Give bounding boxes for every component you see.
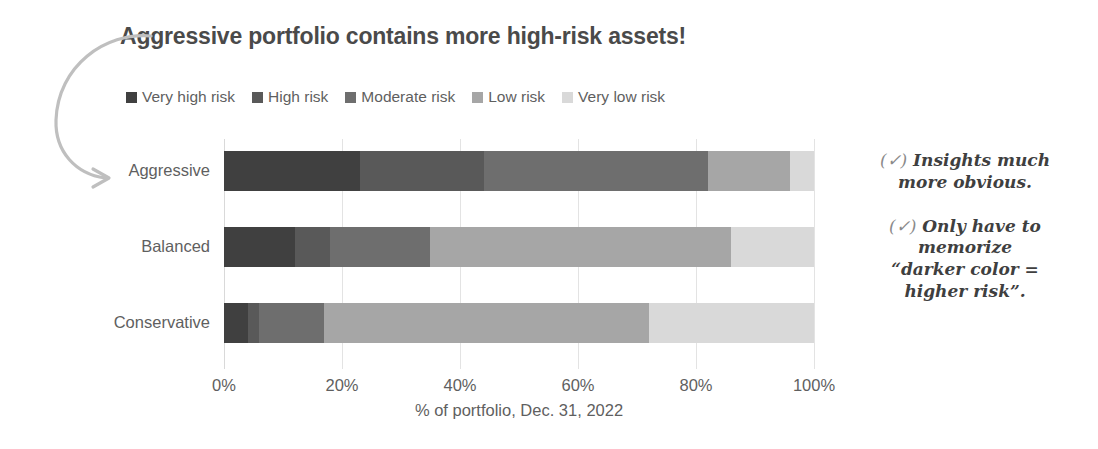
legend-swatch-icon bbox=[126, 92, 137, 103]
legend-swatch-icon bbox=[562, 92, 573, 103]
legend-swatch-icon bbox=[472, 92, 483, 103]
legend-item-high-risk[interactable]: High risk bbox=[252, 88, 328, 106]
check-icon: (✓) bbox=[889, 216, 916, 236]
legend-item-very-low-risk[interactable]: Very low risk bbox=[562, 88, 665, 106]
chart-legend: Very high risk High risk Moderate risk L… bbox=[126, 88, 665, 106]
annotation-line: “darker color = bbox=[840, 259, 1090, 281]
y-axis-label-conservative: Conservative bbox=[30, 313, 210, 332]
bar-row bbox=[224, 151, 814, 191]
annotation-group: (✓) Insights much more obvious. (✓) Only… bbox=[840, 150, 1090, 303]
annotation-line: Insights much bbox=[913, 150, 1050, 170]
annotation-insights: (✓) Insights much more obvious. bbox=[840, 150, 1090, 194]
bar-segment[interactable] bbox=[731, 227, 814, 267]
check-icon: (✓) bbox=[880, 150, 907, 170]
bar-segment[interactable] bbox=[330, 227, 430, 267]
bar-segment[interactable] bbox=[484, 151, 708, 191]
legend-item-low-risk[interactable]: Low risk bbox=[472, 88, 545, 106]
legend-item-moderate-risk[interactable]: Moderate risk bbox=[345, 88, 455, 106]
annotation-line: more obvious. bbox=[840, 172, 1090, 194]
bar-row bbox=[224, 303, 814, 343]
legend-swatch-icon bbox=[252, 92, 263, 103]
bar-row bbox=[224, 227, 814, 267]
annotation-line: memorize bbox=[840, 237, 1090, 259]
legend-label: Very low risk bbox=[578, 88, 665, 106]
plot-area bbox=[224, 139, 814, 369]
y-axis-label-aggressive: Aggressive bbox=[30, 161, 210, 180]
legend-label: Moderate risk bbox=[361, 88, 455, 106]
annotation-line: Only have to bbox=[922, 216, 1041, 236]
y-axis-labels: Aggressive Balanced Conservative bbox=[24, 139, 210, 369]
legend-swatch-icon bbox=[345, 92, 356, 103]
bar-segment[interactable] bbox=[790, 151, 814, 191]
x-axis-ticks: 0%20%40%60%80%100% bbox=[224, 376, 814, 398]
gridline bbox=[814, 139, 815, 369]
bar-segment[interactable] bbox=[324, 303, 649, 343]
x-axis-tick-label: 20% bbox=[325, 376, 358, 395]
y-axis-label-balanced: Balanced bbox=[30, 237, 210, 256]
bar-segment[interactable] bbox=[360, 151, 484, 191]
bar-segment[interactable] bbox=[224, 227, 295, 267]
chart-title: Aggressive portfolio contains more high-… bbox=[120, 23, 820, 50]
bar-segment[interactable] bbox=[295, 227, 330, 267]
bar-segment[interactable] bbox=[430, 227, 731, 267]
chart-root: Aggressive portfolio contains more high-… bbox=[0, 0, 1098, 449]
x-axis-tick-label: 60% bbox=[561, 376, 594, 395]
legend-label: Low risk bbox=[488, 88, 545, 106]
annotation-line: higher risk”. bbox=[840, 281, 1090, 303]
bar-segment[interactable] bbox=[708, 151, 791, 191]
bar-segment[interactable] bbox=[224, 303, 248, 343]
legend-label: Very high risk bbox=[142, 88, 235, 106]
bar-segment[interactable] bbox=[649, 303, 814, 343]
annotation-memorize: (✓) Only have to memorize “darker color … bbox=[840, 216, 1090, 303]
legend-item-very-high-risk[interactable]: Very high risk bbox=[126, 88, 235, 106]
legend-label: High risk bbox=[268, 88, 328, 106]
bar-segment[interactable] bbox=[248, 303, 260, 343]
x-axis-tick-label: 40% bbox=[443, 376, 476, 395]
x-axis-title: % of portfolio, Dec. 31, 2022 bbox=[224, 401, 814, 420]
bar-segment[interactable] bbox=[259, 303, 324, 343]
x-axis-tick-label: 100% bbox=[793, 376, 835, 395]
x-axis-tick-label: 0% bbox=[212, 376, 236, 395]
bar-segment[interactable] bbox=[224, 151, 360, 191]
x-axis-tick-label: 80% bbox=[679, 376, 712, 395]
